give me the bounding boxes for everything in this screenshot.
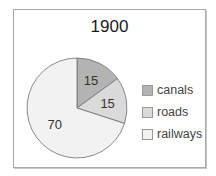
legend-label: roads xyxy=(157,105,188,119)
legend-label: canals xyxy=(157,83,193,97)
legend-item-canals: canals xyxy=(142,79,202,101)
legend-label: railways xyxy=(157,127,202,141)
legend-swatch-railways xyxy=(142,129,153,140)
legend-swatch-roads xyxy=(142,107,153,118)
legend-item-railways: railways xyxy=(142,123,202,145)
slice-label-railways: 70 xyxy=(48,117,62,132)
slice-label-canals: 15 xyxy=(84,73,98,88)
legend-item-roads: roads xyxy=(142,101,202,123)
slice-label-roads: 15 xyxy=(100,96,114,111)
legend: canals roads railways xyxy=(142,79,202,145)
legend-swatch-canals xyxy=(142,85,153,96)
